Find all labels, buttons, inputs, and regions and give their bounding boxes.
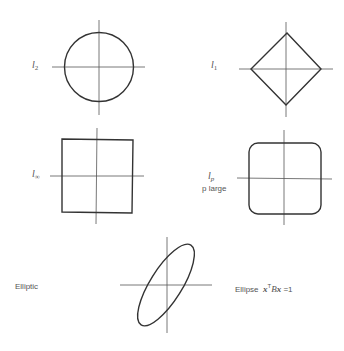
- norm-unit-balls-figure: l2 l1 l∞ lp p large Elliptic Ellipse xTB…: [0, 0, 344, 351]
- label-lp: lp: [208, 171, 214, 183]
- x-axis: [237, 178, 332, 179]
- panel-elliptic: [120, 237, 212, 334]
- label-p-large: p large: [202, 185, 226, 193]
- label-linf: l∞: [32, 169, 40, 181]
- panel-linf: [50, 128, 144, 224]
- label-l2: l2: [32, 60, 38, 72]
- panel-l1: [239, 22, 333, 117]
- figure-drawing: [0, 0, 344, 351]
- panel-l2: [52, 20, 145, 115]
- y-axis: [96, 128, 97, 224]
- panel-lp: [237, 130, 332, 225]
- label-ellipse-equation: Ellipse xTBx =1: [235, 283, 293, 294]
- label-elliptic: Elliptic: [15, 283, 38, 291]
- label-l1: l1: [211, 60, 217, 72]
